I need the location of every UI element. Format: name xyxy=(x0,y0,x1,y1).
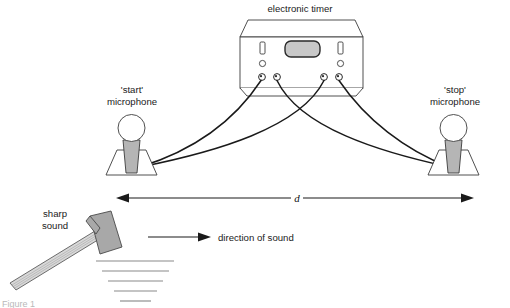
connector-port-2-pin xyxy=(275,75,277,77)
stop-microphone-label-line1: 'stop' xyxy=(444,84,466,95)
speed-of-sound-diagram: electronic timer xyxy=(0,0,510,308)
wire-port1-to-start-mic xyxy=(140,81,261,168)
distance-label: d xyxy=(294,192,300,204)
timer-display xyxy=(285,41,320,57)
connector-port-1-pin xyxy=(260,75,262,77)
stop-mic-head xyxy=(440,115,467,142)
timer-right-slot xyxy=(338,42,343,54)
distance-dimension: d xyxy=(116,192,474,204)
figure-caption-partial: Figure 1 xyxy=(2,299,35,308)
distance-arrow-left xyxy=(116,194,129,203)
connector-port-3-pin xyxy=(322,75,324,77)
connector-port-4-pin xyxy=(337,75,339,77)
start-mic-body xyxy=(123,140,140,173)
stop-microphone: 'stop' microphone xyxy=(428,84,480,175)
hammer-handle-hatch-1 xyxy=(12,233,97,285)
start-microphone: 'start' microphone xyxy=(106,84,157,175)
connector-port-2[interactable] xyxy=(274,74,281,81)
hammer-handle-hatch-3 xyxy=(15,236,100,288)
figure-canvas: electronic timer xyxy=(0,0,510,308)
sharp-sound-label-line1: sharp xyxy=(43,208,67,219)
start-microphone-label-line2: microphone xyxy=(107,96,157,107)
stop-mic-body xyxy=(445,140,462,173)
timer-top-face xyxy=(240,20,363,37)
distance-arrow-right xyxy=(461,194,474,203)
start-microphone-label-line1: 'start' xyxy=(121,84,143,95)
stop-microphone-label-line2: microphone xyxy=(430,96,480,107)
ground-surface-lines xyxy=(96,261,174,301)
hammer-handle xyxy=(10,231,101,290)
hammer: sharp sound xyxy=(10,208,122,290)
start-mic-head xyxy=(118,115,145,142)
connector-port-1[interactable] xyxy=(259,74,266,81)
timer-left-knob[interactable] xyxy=(259,60,265,66)
direction-of-sound-indicator: direction of sound xyxy=(148,232,294,243)
timer-left-slot xyxy=(260,42,265,54)
direction-arrow-head xyxy=(198,233,211,242)
direction-of-sound-label: direction of sound xyxy=(218,232,294,243)
hammer-handle-hatch-2 xyxy=(13,235,98,287)
connector-port-3[interactable] xyxy=(321,74,328,81)
connector-port-4[interactable] xyxy=(336,74,343,81)
electronic-timer-label: electronic timer xyxy=(267,3,333,14)
sharp-sound-label-line2: sound xyxy=(42,220,68,231)
timer-right-knob[interactable] xyxy=(337,60,343,66)
